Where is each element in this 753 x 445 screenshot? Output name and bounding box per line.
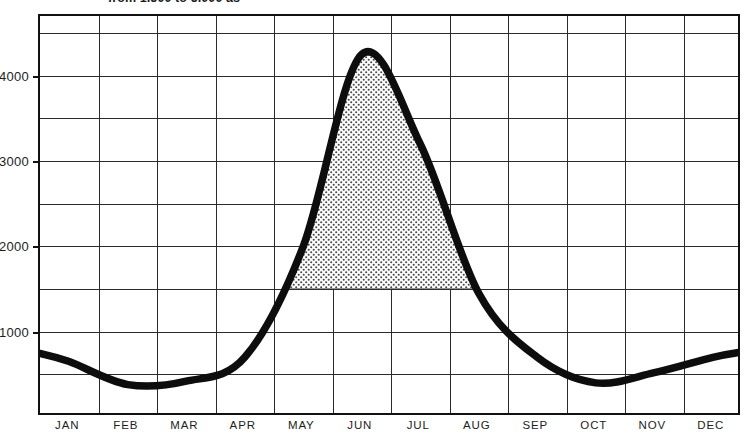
x-axis-label-jan: JAN — [55, 419, 79, 431]
y-axis-label: 3000 — [0, 154, 29, 169]
y-axis-label: 1000 — [0, 324, 29, 339]
x-axis-labels: JANFEBMARAPRMAYJUNJULAUGSEPOCTNOVDEC — [38, 419, 740, 441]
x-axis-label-oct: OCT — [580, 419, 607, 431]
x-axis-label-jul: JUL — [407, 419, 430, 431]
x-axis-label-feb: FEB — [113, 419, 138, 431]
x-axis-label-jun: JUN — [347, 419, 372, 431]
plot-area — [38, 14, 740, 415]
y-axis-label: 2000 — [0, 239, 29, 254]
chart-canvas — [40, 16, 738, 413]
y-axis-labels: 4000300020001000 — [0, 14, 33, 415]
y-axis-tick — [33, 246, 40, 248]
x-axis-label-nov: NOV — [638, 419, 666, 431]
chart-page: from 1,500 to 5,000 as 4000300020001000 — [0, 0, 753, 445]
plot-inner — [40, 16, 738, 413]
x-axis-label-aug: AUG — [463, 419, 491, 431]
x-axis-label-may: MAY — [288, 419, 315, 431]
y-axis-tick — [33, 332, 40, 334]
x-axis-label-dec: DEC — [697, 419, 724, 431]
shaded-region — [40, 16, 738, 289]
x-axis-label-mar: MAR — [170, 419, 198, 431]
y-axis-tick — [33, 76, 40, 78]
x-axis-label-apr: APR — [230, 419, 256, 431]
page-title: from 1,500 to 5,000 as — [108, 0, 240, 2]
x-axis-label-sep: SEP — [522, 419, 548, 431]
y-axis-label: 4000 — [0, 68, 29, 83]
y-axis-tick — [33, 161, 40, 163]
